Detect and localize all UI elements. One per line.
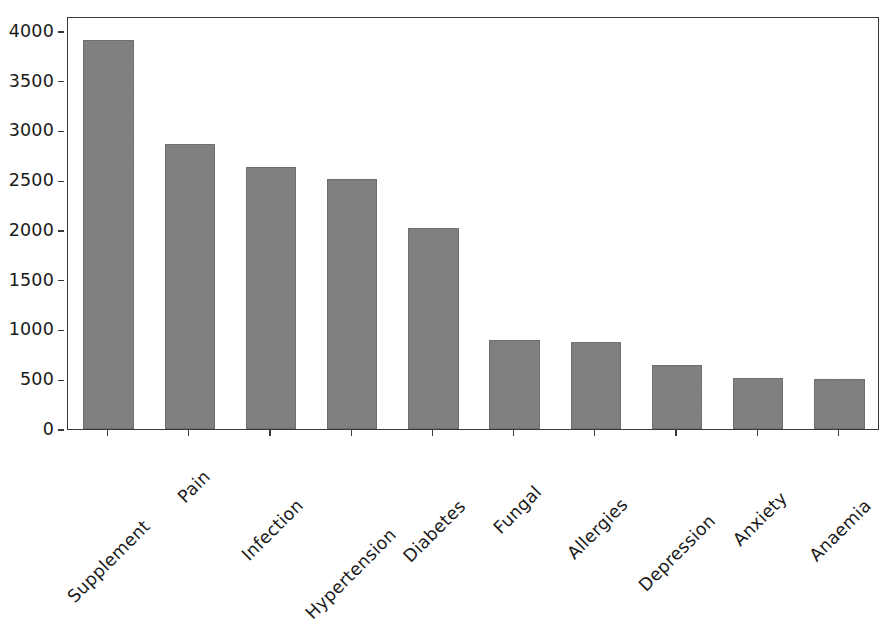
x-axis: SupplementPainInfectionHypertensionDiabe… <box>67 430 879 540</box>
y-tick-mark <box>58 380 64 381</box>
x-tick-label-text: Fungal <box>489 482 545 538</box>
x-tick-mark <box>594 430 595 436</box>
y-tick-label: 3000 <box>9 120 54 140</box>
x-tick-label: Pain <box>200 440 240 480</box>
x-tick-mark <box>188 430 189 436</box>
x-tick-mark <box>269 430 270 436</box>
x-tick-mark <box>675 430 676 436</box>
bar <box>165 144 215 429</box>
x-tick-label: Allergies <box>617 440 686 509</box>
x-tick-mark <box>432 430 433 436</box>
y-axis: 40003500300025002000150010005000 <box>0 0 67 540</box>
x-tick-mark <box>351 430 352 436</box>
y-tick-label: 0 <box>43 419 54 439</box>
bar <box>733 378 783 429</box>
y-tick-label: 4000 <box>9 21 54 41</box>
x-tick-label-text: Allergies <box>563 494 632 563</box>
y-tick-mark <box>58 131 64 132</box>
y-tick-mark <box>58 330 64 331</box>
bar <box>814 379 864 429</box>
y-tick-mark <box>58 81 64 82</box>
x-tick-mark <box>838 430 839 436</box>
x-tick-mark <box>513 430 514 436</box>
y-tick-mark <box>58 181 64 182</box>
x-tick-label-text: Supplement <box>63 516 153 606</box>
y-tick-label: 3500 <box>9 71 54 91</box>
x-tick-label: Anaemia <box>861 440 894 510</box>
x-tick-mark <box>107 430 108 436</box>
x-tick-label-text: Depression <box>635 511 720 596</box>
bars-layer <box>68 18 878 429</box>
y-tick-label: 2500 <box>9 170 54 190</box>
y-tick-label: 500 <box>20 369 54 389</box>
x-tick-label-text: Infection <box>238 495 307 564</box>
bar <box>408 228 458 429</box>
x-tick-label: Infection <box>293 440 362 509</box>
y-tick-label: 1000 <box>9 319 54 339</box>
x-tick-label: Anxiety <box>777 440 839 502</box>
y-tick-mark <box>58 31 64 32</box>
bar <box>83 40 133 429</box>
y-tick-mark <box>58 230 64 231</box>
x-tick-label-text: Anaemia <box>806 496 876 566</box>
bar <box>571 342 621 429</box>
bar <box>652 365 702 429</box>
bar <box>489 340 539 429</box>
bar <box>246 167 296 429</box>
y-tick-label: 2000 <box>9 220 54 240</box>
y-tick-mark <box>58 280 64 281</box>
x-tick-mark <box>757 430 758 436</box>
bar <box>327 179 377 429</box>
x-tick-label: Fungal <box>531 440 587 496</box>
y-tick-label: 1500 <box>9 270 54 290</box>
plot-area <box>67 17 879 430</box>
y-tick-mark <box>58 429 64 430</box>
x-tick-label-text: Hypertension <box>302 524 401 623</box>
